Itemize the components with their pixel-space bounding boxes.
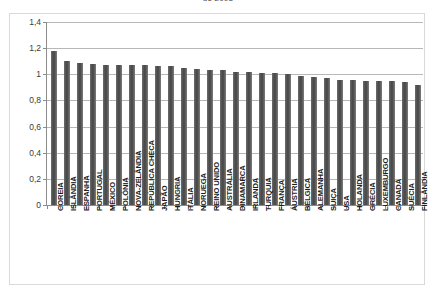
y-axis-tick-label: 1	[36, 69, 41, 79]
x-axis-tick-label: COREIA	[57, 182, 65, 211]
y-axis-tick-label: 0	[36, 200, 41, 210]
x-axis-tick-label: SUÉCIA	[408, 183, 416, 211]
x-axis-tick-label: ESPANHA	[83, 175, 91, 211]
x-axis-tick-label: TURQUIA	[265, 177, 273, 211]
x-tick-mark	[47, 206, 48, 209]
bar	[337, 80, 343, 205]
x-axis-tick-label: MÉXICO	[109, 182, 117, 211]
bar-slot	[333, 22, 346, 205]
x-axis-tick-label: FINLÂNDIA	[421, 171, 429, 211]
x-axis-tick-label: REINO UNIDO	[213, 162, 221, 211]
x-axis-tick-label: SUIÇA	[330, 188, 338, 211]
x-axis-tick-label: ISLÂNDIA	[70, 176, 78, 211]
y-axis-tick-label: 1,2	[29, 43, 41, 53]
x-axis-tick-label: ITÁLIA	[187, 187, 195, 211]
x-axis-tick-label: REPÚBLICA CHECA	[148, 140, 156, 211]
y-axis-tick-label: 1,4	[29, 17, 41, 27]
chart-figure: de 2008 00,20,40,60,811,21,4 COREIAISLÂN…	[0, 0, 436, 299]
y-axis-tick-label: 0,4	[29, 148, 41, 158]
y-axis-tick-label: 0,6	[29, 122, 41, 132]
x-axis-tick-label: FRANÇA	[278, 180, 286, 211]
x-axis-tick-label: USA	[343, 195, 351, 211]
x-axis-tick-label: NORUEGA	[200, 173, 208, 211]
x-axis-tick-label: JAPÃO	[161, 186, 169, 211]
x-axis-tick-label: ALEMANHA	[317, 169, 325, 211]
x-axis-tick-label: ÁUSTRIA	[291, 178, 299, 211]
x-axis-tick-label: PORTUGAL	[96, 170, 104, 211]
bar-slot	[47, 22, 60, 205]
x-axis-tick-label: LUXEMBURGO	[382, 158, 390, 211]
x-axis-tick-label: DINAMARCA	[239, 166, 247, 211]
x-axis-tick-label: AUSTRÁLIA	[226, 168, 234, 211]
x-axis-tick-label: POLÓNIA	[122, 177, 130, 211]
x-axis-tick-label: HOLANDA	[356, 174, 364, 211]
bar-slot	[398, 22, 411, 205]
chart-title: de 2008	[0, 0, 436, 3]
y-axis-tick-label: 0,2	[29, 174, 41, 184]
x-axis-tick-label: CANADÁ	[395, 179, 403, 211]
x-axis-tick-label: NOVA-ZELÂNDIA	[135, 151, 143, 211]
x-axis-tick-label: HUNGRIA	[174, 177, 182, 211]
x-axis-tick-label: IRLANDA	[252, 178, 260, 211]
chart-frame: 00,20,40,60,811,21,4 COREIAISLÂNDIAESPAN…	[9, 13, 425, 285]
x-axis-tick-label: GRÉCIA	[369, 182, 377, 211]
x-axis-tick-label: BÉLGICA	[304, 178, 312, 211]
y-axis-tick-label: 0,8	[29, 95, 41, 105]
